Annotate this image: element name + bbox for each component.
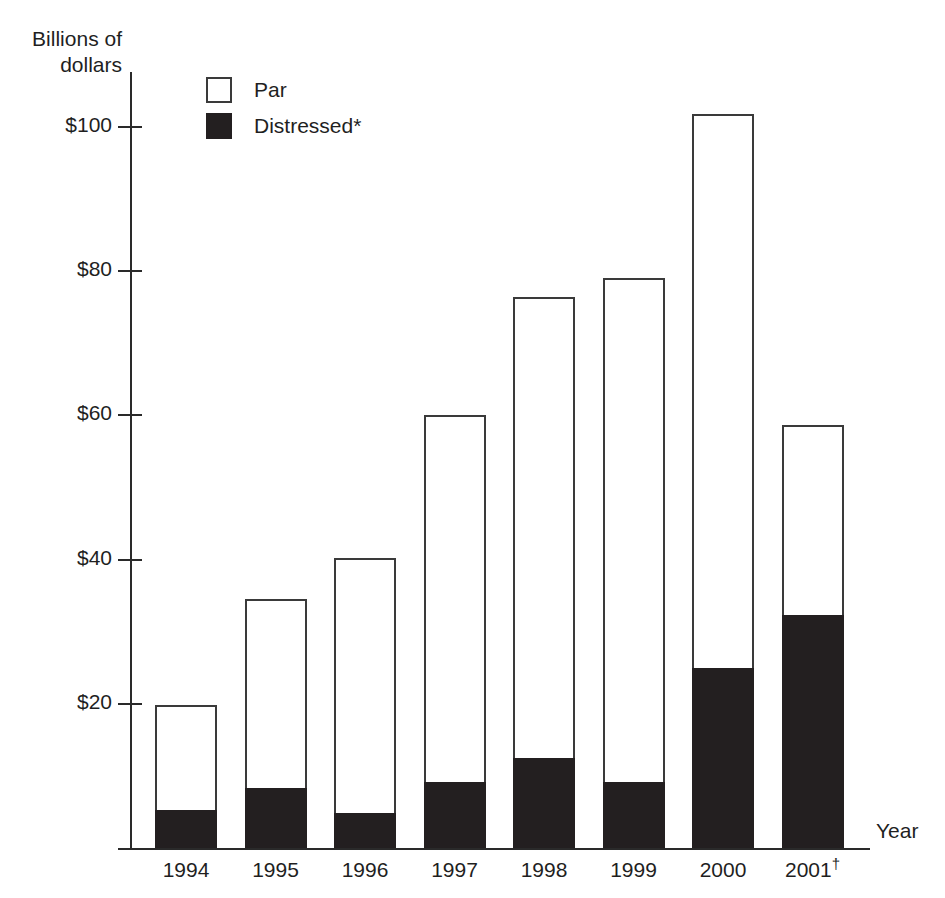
- x-axis-line: [118, 848, 870, 850]
- x-axis-label: 1999: [583, 858, 685, 882]
- x-axis-label-footnote-marker: †: [832, 855, 840, 872]
- x-axis-label: 1997: [404, 858, 506, 882]
- y-axis-line: [130, 72, 132, 850]
- bar-segment-distressed: [245, 788, 307, 848]
- y-tick-mark: [118, 414, 142, 416]
- bar-segment-par: [692, 114, 754, 670]
- x-axis-label: 1996: [314, 858, 416, 882]
- y-tick-label: $20: [0, 690, 112, 692]
- bar-segment-distressed: [424, 782, 486, 848]
- bar-segment-distressed: [603, 782, 665, 848]
- bar-segment-distressed: [334, 813, 396, 848]
- bar-segment-par: [513, 297, 575, 760]
- x-axis-label: 1995: [225, 858, 327, 882]
- y-tick-label: $100: [0, 113, 112, 115]
- bar-segment-par: [245, 599, 307, 790]
- bar-segment-par: [782, 425, 844, 617]
- x-axis-label: 1998: [493, 858, 595, 882]
- y-tick-label-text: $40: [6, 546, 112, 570]
- y-tick-label-text: $20: [6, 690, 112, 714]
- bar-segment-distressed: [782, 615, 844, 848]
- y-tick-label-text: $60: [6, 401, 112, 425]
- x-axis-label: 2000: [672, 858, 774, 882]
- y-tick-label: $80: [0, 257, 112, 259]
- y-tick-mark: [118, 559, 142, 561]
- bar-segment-par: [603, 278, 665, 784]
- y-tick-label: $60: [0, 401, 112, 403]
- y-tick-mark: [118, 270, 142, 272]
- y-tick-mark: [118, 126, 142, 128]
- bar-chart: Billions ofdollars Year Par Distressed* …: [0, 0, 945, 898]
- y-tick-label-text: $100: [6, 113, 112, 137]
- bar-segment-distressed: [692, 668, 754, 848]
- plot-area: $20$40$60$80$100 19941995199619971998199…: [0, 0, 945, 898]
- bar-segment-par: [334, 558, 396, 815]
- y-tick-mark: [118, 703, 142, 705]
- y-tick-label: $40: [0, 546, 112, 548]
- bar-segment-distressed: [155, 810, 217, 848]
- bar-segment-par: [155, 705, 217, 812]
- x-axis-label: 1994: [135, 858, 237, 882]
- x-axis-label: 2001†: [762, 858, 864, 882]
- bar-segment-distressed: [513, 758, 575, 848]
- bar-segment-par: [424, 415, 486, 784]
- y-tick-label-text: $80: [6, 257, 112, 281]
